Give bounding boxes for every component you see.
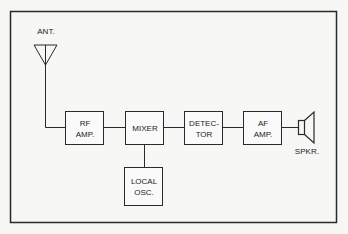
rf-amp-label: RF AMP. — [66, 112, 104, 145]
rf-amp-line2: AMP. — [76, 129, 95, 140]
antenna-label: ANT. — [31, 27, 61, 37]
speaker-icon — [299, 112, 315, 143]
mixer-line1: MIXER — [132, 123, 157, 134]
local-osc-label: LOCAL OSC. — [125, 168, 163, 206]
af-amp-line1: AF — [258, 118, 268, 129]
rf-amp-line1: RF — [80, 118, 91, 129]
connector-antenna-rfamp — [46, 65, 66, 128]
speaker-label: SPKR. — [292, 147, 322, 157]
detector-line2: TOR — [196, 129, 213, 140]
local-osc-line2: OSC. — [134, 187, 154, 198]
af-amp-label: AF AMP. — [244, 112, 282, 145]
detector-label: DETEC- TOR — [185, 112, 223, 145]
antenna-icon — [34, 45, 57, 65]
af-amp-line2: AMP. — [254, 129, 273, 140]
local-osc-line1: LOCAL — [131, 176, 157, 187]
diagram-frame — [11, 12, 337, 223]
detector-line1: DETEC- — [189, 118, 219, 129]
mixer-label: MIXER — [126, 112, 164, 145]
